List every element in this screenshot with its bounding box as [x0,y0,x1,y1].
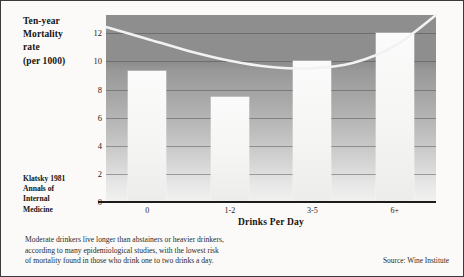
chart-title: Ten-yearMortalityrate(per 1000) [23,15,93,68]
caption-line-1: Moderate drinkers live longer than absta… [25,235,325,246]
caption-line-2: according to many epidemiological studie… [25,246,325,257]
y-tick-label-12: 12 [94,28,103,38]
y-tick-label-2: 2 [98,169,102,179]
x-tick-label-3-5: 3-5 [307,206,318,215]
caption-text: Moderate drinkers live longer than absta… [25,235,325,267]
y-tick-label-8: 8 [98,85,102,95]
plot-area [106,15,436,202]
x-tick-label-6+: 6+ [391,206,400,215]
chart-title-line-1: Ten-year [23,15,93,28]
left-text-column: Ten-yearMortalityrate(per 1000) Klatsky … [1,1,89,211]
chart-title-line-4: (per 1000) [23,55,93,68]
x-axis-line [98,201,436,203]
caption-line-3: of mortality found in those who drink on… [25,256,325,267]
y-tick-label-4: 4 [98,141,102,151]
x-axis-label: Drinks Per Day [106,217,436,227]
citation-line-3: Internal [23,194,95,204]
citation-block: Klatsky 1981Annals ofInternalMedicine [23,174,95,215]
mortality-vs-drinks-figure: 024681012 01-23-56+ Drinks Per Day Ten-y… [0,0,464,277]
source-attribution: Source: Wine Institute [383,256,449,265]
citation-line-1: Klatsky 1981 [23,174,95,184]
trend-curve-path [106,15,436,69]
x-tick-label-1-2: 1-2 [224,206,235,215]
citation-line-4: Medicine [23,205,95,215]
y-tick-label-6: 6 [98,113,102,123]
x-tick-label-0: 0 [145,206,149,215]
y-tick-label-10: 10 [94,56,103,66]
trend-curve [106,15,436,202]
citation-line-2: Annals of [23,184,95,194]
chart-title-line-3: rate [23,41,93,54]
chart-title-line-2: Mortality [23,28,93,41]
